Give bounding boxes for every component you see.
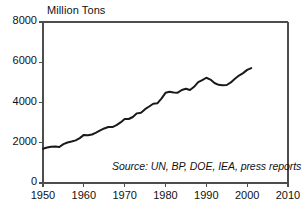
chart-figure: Million Tons 02000400060008000 195019601… [0,0,307,210]
data-series-group [43,68,251,149]
y-tick-label: 4000 [13,95,37,107]
y-tick-label: 8000 [13,14,37,26]
x-tick-label: 2010 [263,189,307,201]
y-tick-label: 2000 [13,135,37,147]
y-tick-label: 6000 [13,54,37,66]
line-chart-plot [0,0,307,210]
plot-frame [43,22,288,183]
y-axis-unit-label: Million Tons [47,4,105,16]
source-note: Source: UN, BP, DOE, IEA, press reports [112,160,301,172]
y-tick-label: 0 [31,175,37,187]
data-line-series [43,68,251,149]
